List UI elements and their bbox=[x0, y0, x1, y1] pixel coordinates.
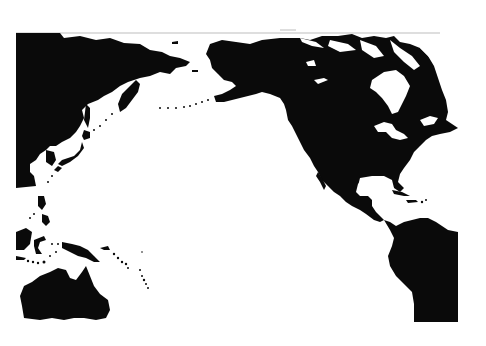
st-lawrence-island bbox=[192, 70, 198, 72]
sulawesi-island bbox=[34, 236, 46, 254]
pacific-islands bbox=[100, 246, 149, 289]
south-america-landmass bbox=[384, 218, 458, 322]
new-guinea-island bbox=[62, 242, 100, 262]
pacific-rim-map bbox=[0, 0, 486, 346]
gulf-of-mexico bbox=[358, 176, 394, 196]
wrangel-island bbox=[172, 41, 178, 44]
aleutian-islands bbox=[159, 99, 209, 109]
north-america-landmass bbox=[206, 34, 458, 222]
philippines-islands bbox=[38, 196, 50, 226]
korea-peninsula bbox=[46, 150, 56, 166]
east-asia-landmass bbox=[16, 33, 190, 188]
borneo-island bbox=[16, 228, 32, 250]
sakhalin-island bbox=[84, 104, 90, 128]
australia-landmass bbox=[20, 266, 110, 320]
